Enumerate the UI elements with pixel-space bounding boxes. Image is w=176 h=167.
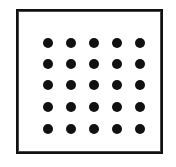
figure-canvas: [0, 0, 176, 167]
dot: [43, 102, 53, 112]
dot: [89, 124, 99, 134]
dot: [89, 102, 99, 112]
dot: [66, 38, 76, 48]
dot: [89, 59, 99, 69]
dot: [66, 124, 76, 134]
square-frame: [16, 9, 163, 154]
dot-grid: [18, 11, 161, 152]
dot: [66, 59, 76, 69]
dot: [112, 80, 122, 90]
dot: [135, 102, 145, 112]
dot: [89, 80, 99, 90]
dot: [43, 124, 53, 134]
dot: [112, 38, 122, 48]
dot: [43, 59, 53, 69]
dot: [135, 124, 145, 134]
dot: [135, 38, 145, 48]
dot: [112, 59, 122, 69]
dot: [43, 38, 53, 48]
dot: [66, 80, 76, 90]
dot: [89, 38, 99, 48]
dot: [112, 102, 122, 112]
dot: [135, 80, 145, 90]
dot: [66, 102, 76, 112]
dot: [135, 59, 145, 69]
dot: [43, 80, 53, 90]
dot: [112, 124, 122, 134]
